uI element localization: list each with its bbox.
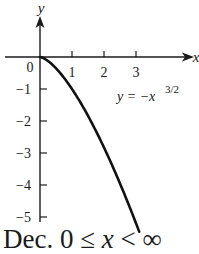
caption-suffix: < ∞ bbox=[114, 224, 162, 254]
origin-label: 0 bbox=[27, 60, 34, 75]
y-tick-label: −2 bbox=[16, 114, 31, 129]
function-graph: 1230−1−2−3−4−5 xyy = −x3/2 bbox=[0, 0, 199, 254]
x-tick-label: 2 bbox=[101, 65, 108, 80]
y-axis-label: y bbox=[36, 0, 45, 16]
equation-label: y = −x bbox=[115, 89, 156, 104]
x-tick-label: 3 bbox=[133, 65, 140, 80]
labels: xyy = −x3/2 bbox=[36, 0, 199, 104]
domain-caption: Dec. 0 ≤ x < ∞ bbox=[3, 224, 162, 254]
ticks: 1230−1−2−3−4−5 bbox=[16, 51, 139, 225]
equation-exponent: 3/2 bbox=[165, 83, 179, 95]
y-tick-label: −4 bbox=[16, 178, 31, 193]
y-tick-label: −1 bbox=[16, 82, 31, 97]
x-axis-label: x bbox=[192, 49, 199, 65]
y-tick-label: −5 bbox=[16, 210, 31, 225]
caption-variable: x bbox=[102, 224, 114, 254]
x-tick-label: 1 bbox=[69, 65, 76, 80]
y-tick-label: −3 bbox=[16, 146, 31, 161]
function-curve bbox=[40, 57, 139, 232]
curve bbox=[40, 57, 139, 232]
axes bbox=[5, 16, 194, 222]
caption-prefix: Dec. 0 ≤ bbox=[3, 224, 102, 254]
